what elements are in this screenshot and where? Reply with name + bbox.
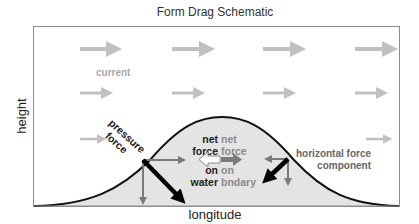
svg-text:net: net: [221, 133, 237, 145]
svg-text:bndary: bndary: [221, 176, 256, 188]
svg-text:component: component: [317, 160, 372, 171]
svg-text:water: water: [190, 176, 218, 188]
svg-text:net: net: [202, 133, 218, 145]
chart-title: Form Drag Schematic: [157, 5, 274, 19]
form-drag-diagram: Form Drag Schematic current pressure for…: [0, 0, 419, 224]
svg-text:on: on: [221, 164, 234, 176]
current-label: current: [96, 67, 131, 78]
y-axis-label: height: [14, 98, 29, 134]
x-axis-label: longitude: [189, 207, 242, 222]
svg-text:horizontal force: horizontal force: [296, 148, 371, 159]
